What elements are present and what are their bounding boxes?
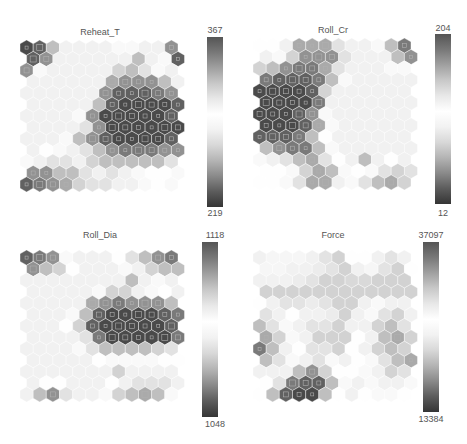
panel-title: Reheat_T [0,27,200,37]
colorbar-min: 219 [195,208,235,218]
colorbar-min: 1048 [195,419,235,429]
panel-reheat-t: Reheat_T 367 219 [0,0,233,222]
colorbar [202,242,218,417]
hex-map [253,250,433,415]
panel-force: Force 37097 13384 [233,222,467,444]
panel-roll-dia: Roll_Dia 1118 1048 [0,222,233,444]
panel-roll-cr: Roll_Cr 204 12 [233,0,467,222]
colorbar-max: 37097 [411,230,451,240]
colorbar-max: 204 [423,23,463,33]
colorbar-min: 12 [423,208,463,218]
colorbar [207,37,223,207]
panel-title: Roll_Cr [233,25,433,35]
colorbar-min: 13384 [411,414,451,424]
panel-title: Roll_Dia [0,230,200,240]
colorbar-max: 367 [195,25,235,35]
hex-map [20,250,200,420]
colorbar [423,242,439,412]
hex-map [253,38,433,208]
panel-title: Force [233,230,433,240]
colorbar [435,34,451,204]
colorbar-max: 1118 [195,230,235,240]
hex-map [20,40,200,210]
